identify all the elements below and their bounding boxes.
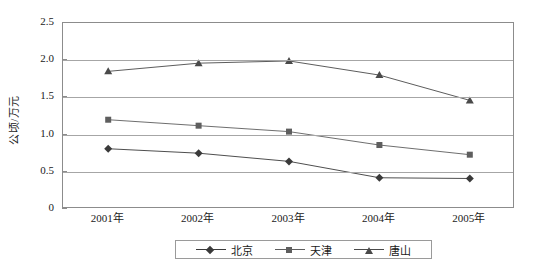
data-point-marker — [286, 129, 292, 135]
data-point-marker — [466, 174, 474, 182]
legend-swatch — [354, 244, 384, 255]
data-point-marker — [105, 117, 111, 123]
x-axis-tick-label: 2004年 — [343, 212, 413, 224]
series-line — [108, 61, 470, 100]
y-axis-tick-labels: 00.51.01.52.02.5 — [20, 22, 58, 208]
y-axis-tick-mark — [62, 171, 67, 172]
legend-swatch — [196, 244, 226, 255]
y-axis-title-text: 公顷/万元 — [5, 95, 21, 145]
y-axis-tick-label: 1.5 — [20, 90, 54, 101]
y-axis-tick-mark — [62, 22, 67, 23]
x-axis-tick-label: 2002年 — [163, 212, 233, 224]
square-marker-icon — [286, 247, 292, 253]
legend-label: 北京 — [231, 242, 253, 258]
data-point-marker — [196, 123, 202, 129]
y-axis-tick-label: 0.5 — [20, 165, 54, 176]
y-axis-tick-label: 1.0 — [20, 128, 54, 139]
gridline — [63, 135, 513, 136]
series-北京 — [104, 145, 474, 183]
y-axis-tick-mark — [62, 96, 67, 97]
triangle-marker-icon — [365, 247, 373, 254]
y-axis-tick-label: 2.5 — [20, 16, 54, 27]
y-axis-tick-label: 2.0 — [20, 53, 54, 64]
data-point-marker — [195, 149, 203, 157]
y-axis-tick-mark — [62, 59, 67, 60]
legend-label: 天津 — [310, 242, 332, 258]
x-axis-tick-labels: 2001年2002年2003年2004年2005年 — [62, 212, 514, 232]
series-svg — [63, 23, 515, 209]
data-point-marker — [467, 152, 473, 158]
chart-legend: 北京天津唐山 — [175, 240, 432, 259]
diamond-marker-icon — [206, 246, 214, 254]
data-point-marker — [285, 157, 293, 165]
data-point-marker — [376, 142, 382, 148]
y-axis-tick-mark — [62, 134, 67, 135]
chart-figure: 公顷/万元 00.51.01.52.02.5 2001年2002年2003年20… — [0, 0, 550, 267]
legend-label: 唐山 — [389, 242, 411, 258]
series-line — [108, 120, 470, 155]
legend-item-北京[interactable]: 北京 — [196, 242, 253, 258]
x-axis-tick-label: 2003年 — [253, 212, 323, 224]
legend-item-唐山[interactable]: 唐山 — [354, 242, 411, 258]
gridline — [63, 172, 513, 173]
y-axis-tick-label: 0 — [20, 202, 54, 213]
data-point-marker — [375, 174, 383, 182]
gridline — [63, 97, 513, 98]
gridline — [63, 60, 513, 61]
legend-swatch — [275, 244, 305, 255]
legend-item-天津[interactable]: 天津 — [275, 242, 332, 258]
data-point-marker — [104, 145, 112, 153]
x-axis-tick-label: 2001年 — [72, 212, 142, 224]
x-axis-tick-label: 2005年 — [434, 212, 504, 224]
plot-area — [62, 22, 514, 208]
y-axis-tick-mark — [62, 208, 67, 209]
